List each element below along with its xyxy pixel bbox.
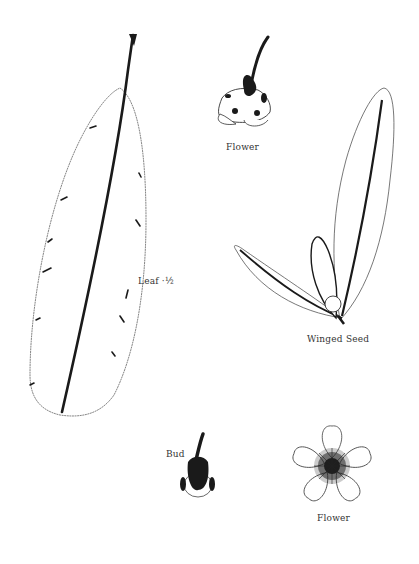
flower-top-illustration bbox=[291, 426, 373, 504]
bud-illustration bbox=[180, 434, 215, 497]
bud-label: Bud bbox=[166, 449, 185, 459]
leaf-label: Leaf ·½ bbox=[138, 276, 174, 286]
leaf-illustration bbox=[30, 34, 146, 416]
flower-side-illustration bbox=[218, 37, 270, 126]
flower-side-label: Flower bbox=[226, 142, 259, 152]
winged-seed-label: Winged Seed bbox=[307, 334, 369, 344]
flower-top-label: Flower bbox=[317, 513, 350, 523]
botanical-drawing bbox=[0, 0, 419, 564]
